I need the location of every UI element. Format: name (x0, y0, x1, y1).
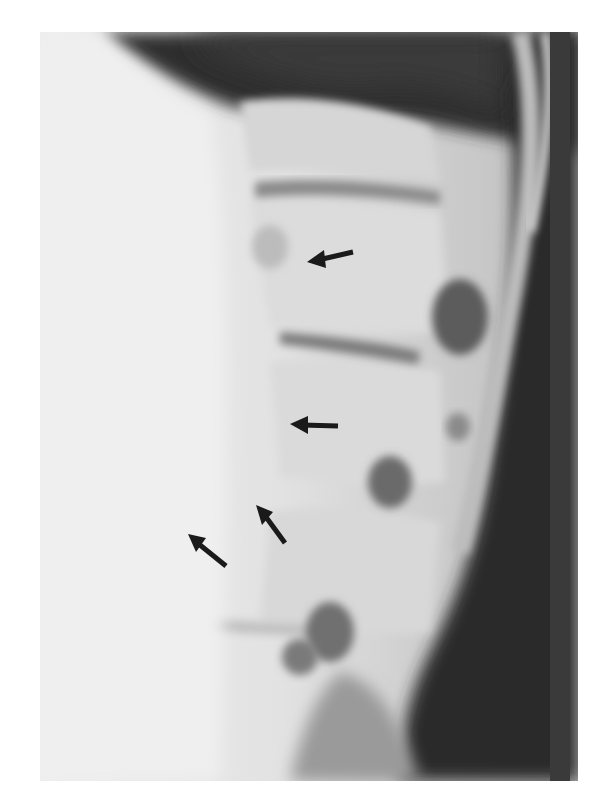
radiograph-image (40, 32, 578, 781)
